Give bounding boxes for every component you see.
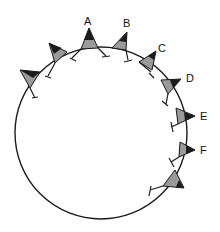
flag-1 bbox=[20, 70, 40, 98]
flag-b bbox=[112, 32, 132, 62]
label-e: E bbox=[200, 110, 207, 122]
flag-d bbox=[161, 79, 181, 106]
flag-9 bbox=[149, 170, 184, 196]
label-b: B bbox=[123, 17, 130, 29]
cycle-circle bbox=[15, 47, 187, 219]
label-d: D bbox=[186, 72, 194, 84]
flag-c bbox=[139, 51, 156, 78]
flag-e bbox=[171, 108, 195, 132]
label-a: A bbox=[84, 15, 92, 27]
flag-2 bbox=[45, 43, 67, 78]
label-c: C bbox=[158, 42, 166, 54]
cycle-diagram: A B C D E F bbox=[0, 0, 220, 232]
label-f: F bbox=[200, 144, 207, 156]
flag-a bbox=[70, 28, 110, 61]
